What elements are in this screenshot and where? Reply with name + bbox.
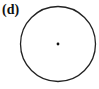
center-point [57, 43, 60, 46]
circle-diagram [0, 0, 99, 89]
